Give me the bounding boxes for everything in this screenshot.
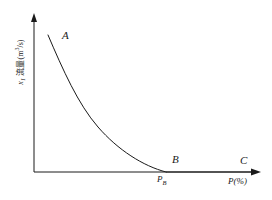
point-label-a: A	[62, 30, 69, 41]
discharge-curve	[48, 35, 166, 172]
point-label-pb: PB	[157, 175, 166, 186]
pb-subscript: B	[163, 179, 167, 186]
y-axis-unit-close: /s)	[16, 40, 25, 48]
y-axis-arrow-icon	[31, 13, 37, 22]
y-axis-label: x1 流量(m3/s)	[14, 14, 26, 110]
x-axis-label: P(%)	[228, 177, 247, 186]
chart-canvas	[0, 0, 272, 200]
point-label-c: C	[240, 155, 247, 166]
y-axis-variable: x1	[16, 78, 25, 85]
y-axis-unit-exponent: 3	[14, 48, 20, 51]
y-axis-label-text: 流量	[16, 59, 25, 76]
y-axis-variable-base: x	[16, 81, 25, 85]
y-axis-variable-subscript: 1	[20, 78, 26, 81]
y-axis-unit: (m3/s)	[16, 40, 25, 60]
y-axis-unit-open: (m	[16, 51, 25, 60]
point-label-b: B	[172, 154, 179, 165]
chart-figure: A B C PB P(%) x1 流量(m3/s)	[0, 0, 272, 200]
